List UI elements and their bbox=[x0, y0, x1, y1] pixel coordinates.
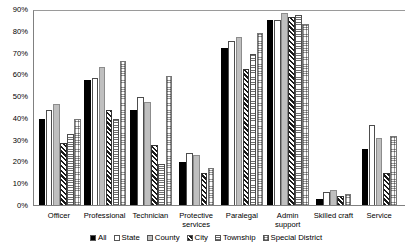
bar bbox=[92, 78, 99, 205]
legend-swatch-icon bbox=[114, 235, 120, 241]
bar bbox=[257, 33, 264, 205]
x-tick-label: Paralegal bbox=[219, 208, 265, 230]
bar bbox=[295, 15, 302, 205]
legend-item[interactable]: All bbox=[90, 233, 107, 242]
bar bbox=[236, 37, 243, 205]
bar bbox=[228, 41, 235, 205]
bar bbox=[193, 155, 200, 205]
chart-legend: AllStateCountyCityTownshipSpecial Distri… bbox=[0, 233, 412, 242]
bar bbox=[208, 168, 215, 205]
legend-swatch-icon bbox=[187, 235, 193, 241]
bar bbox=[67, 134, 74, 205]
bar bbox=[46, 110, 53, 205]
legend-item[interactable]: County bbox=[147, 233, 180, 242]
x-tick-label: Technician bbox=[128, 208, 174, 230]
bar bbox=[137, 97, 144, 205]
bar bbox=[186, 153, 193, 205]
bar bbox=[316, 199, 323, 205]
legend-label: Special District bbox=[271, 233, 323, 242]
legend-label: All bbox=[98, 233, 107, 242]
legend-label: Township bbox=[223, 233, 256, 242]
bar bbox=[250, 54, 257, 205]
bar bbox=[369, 125, 376, 205]
bar bbox=[243, 69, 250, 205]
x-tick-label: Skilled craft bbox=[311, 208, 357, 230]
bar-group bbox=[128, 11, 174, 205]
x-tick-label: Professional bbox=[82, 208, 128, 230]
bar bbox=[281, 13, 288, 205]
bar-group bbox=[37, 11, 83, 205]
bar bbox=[106, 110, 113, 205]
y-tick-label: 40% bbox=[13, 115, 28, 123]
bar bbox=[120, 61, 127, 205]
bar bbox=[166, 76, 173, 205]
bar bbox=[345, 194, 352, 205]
y-tick-label: 90% bbox=[13, 6, 28, 14]
bar bbox=[221, 48, 228, 205]
y-tick-label: 30% bbox=[13, 137, 28, 145]
bar bbox=[113, 119, 120, 205]
legend-item[interactable]: City bbox=[187, 233, 208, 242]
x-tick-label: Protective services bbox=[173, 208, 219, 230]
x-axis: OfficerProfessionalTechnicianProtective … bbox=[33, 208, 405, 230]
bar bbox=[362, 149, 369, 205]
legend-item[interactable]: Township bbox=[215, 233, 256, 242]
bar bbox=[151, 145, 158, 205]
y-axis: 90% 80% 70% 60% 50% 40% 30% 20% 10% 0% bbox=[0, 10, 31, 206]
legend-swatch-icon bbox=[147, 235, 153, 241]
bar bbox=[60, 143, 67, 206]
bars-layer bbox=[34, 11, 405, 205]
legend-swatch-icon bbox=[215, 235, 221, 241]
bar bbox=[74, 119, 81, 205]
bar bbox=[267, 20, 274, 205]
legend-item[interactable]: Special District bbox=[263, 233, 323, 242]
bar-group bbox=[311, 11, 357, 205]
legend-label: State bbox=[122, 233, 140, 242]
bar bbox=[383, 173, 390, 205]
bar-group bbox=[265, 11, 311, 205]
bar bbox=[302, 24, 309, 205]
bar bbox=[288, 17, 295, 205]
bar bbox=[158, 164, 165, 205]
bar bbox=[53, 104, 60, 205]
x-tick-label: Officer bbox=[36, 208, 82, 230]
y-tick-label: 20% bbox=[13, 159, 28, 167]
bar bbox=[144, 102, 151, 205]
plot-area bbox=[33, 10, 405, 206]
bar bbox=[376, 138, 383, 205]
bar bbox=[99, 67, 106, 205]
bar bbox=[201, 173, 208, 205]
bar bbox=[323, 192, 330, 205]
y-tick-label: 50% bbox=[13, 93, 28, 101]
bar bbox=[390, 136, 397, 205]
legend-swatch-icon bbox=[90, 235, 96, 241]
y-tick-label: 80% bbox=[13, 28, 28, 36]
legend-label: City bbox=[195, 233, 208, 242]
y-tick-label: 0% bbox=[17, 202, 28, 210]
bar bbox=[39, 119, 46, 205]
bar bbox=[84, 80, 91, 205]
bar-group bbox=[356, 11, 402, 205]
bar bbox=[337, 196, 344, 205]
y-tick-label: 60% bbox=[13, 72, 28, 80]
legend-label: County bbox=[155, 233, 180, 242]
legend-item[interactable]: State bbox=[114, 233, 140, 242]
x-tick-label: Admin support bbox=[265, 208, 311, 230]
bar bbox=[179, 162, 186, 205]
bar-group bbox=[83, 11, 129, 205]
x-tick-label: Service bbox=[356, 208, 402, 230]
legend-swatch-icon bbox=[263, 235, 269, 241]
bar-group bbox=[174, 11, 220, 205]
bar bbox=[330, 190, 337, 205]
y-tick-label: 10% bbox=[13, 180, 28, 188]
bar-group bbox=[220, 11, 266, 205]
bar-chart: 90% 80% 70% 60% 50% 40% 30% 20% 10% 0% O… bbox=[0, 0, 412, 252]
bar bbox=[274, 20, 281, 205]
y-tick-label: 70% bbox=[13, 50, 28, 58]
bar bbox=[130, 110, 137, 205]
